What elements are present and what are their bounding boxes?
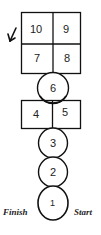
middle-grid bbox=[22, 101, 81, 129]
square-4-label: 4 bbox=[33, 108, 39, 120]
hopscotch-court: 10 9 7 8 6 4 5 3 2 1 bbox=[0, 0, 101, 235]
circle-6-label: 6 bbox=[50, 82, 56, 94]
circle-2-label: 2 bbox=[50, 166, 56, 178]
square-10-label: 10 bbox=[30, 23, 42, 35]
middle-grid-outline bbox=[22, 101, 81, 129]
arrow-down-left-icon bbox=[8, 28, 16, 41]
circle-1-label: 1 bbox=[50, 198, 55, 208]
circle-3-label: 3 bbox=[50, 137, 56, 149]
top-grid bbox=[22, 13, 81, 74]
square-9-label: 9 bbox=[63, 23, 69, 35]
hopscotch-diagram: 10 9 7 8 6 4 5 3 2 1 Finish Start bbox=[0, 0, 101, 235]
square-8-label: 8 bbox=[64, 52, 70, 64]
start-label: Start bbox=[74, 207, 92, 217]
top-grid-outline bbox=[22, 13, 81, 74]
square-5-label: 5 bbox=[62, 106, 68, 118]
square-7-label: 7 bbox=[34, 52, 40, 64]
finish-label: Finish bbox=[3, 207, 28, 217]
